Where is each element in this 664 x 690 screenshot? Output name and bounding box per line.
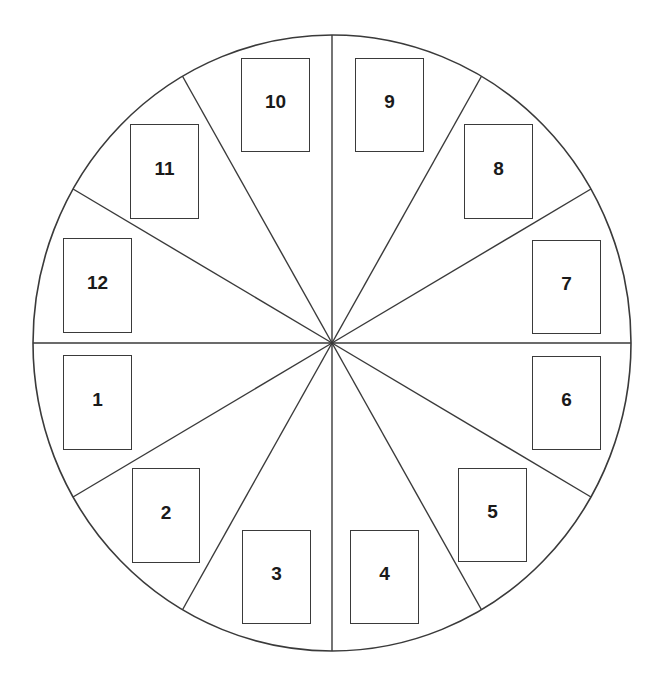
slot-11[interactable]: 11 bbox=[130, 124, 199, 219]
slot-8[interactable]: 8 bbox=[464, 124, 533, 219]
slot-10[interactable]: 10 bbox=[241, 58, 310, 152]
slot-2[interactable]: 2 bbox=[132, 468, 200, 563]
slot-4[interactable]: 4 bbox=[350, 530, 419, 624]
slot-label: 3 bbox=[271, 563, 282, 585]
slot-9[interactable]: 9 bbox=[355, 58, 424, 152]
slot-label: 8 bbox=[493, 158, 504, 180]
slot-5[interactable]: 5 bbox=[458, 468, 527, 562]
slot-1[interactable]: 1 bbox=[63, 355, 132, 450]
slot-label: 9 bbox=[384, 91, 395, 113]
slot-3[interactable]: 3 bbox=[242, 530, 311, 624]
slot-label: 4 bbox=[379, 563, 390, 585]
slot-label: 7 bbox=[561, 273, 572, 295]
slot-label: 10 bbox=[265, 91, 286, 113]
slot-label: 2 bbox=[161, 502, 172, 524]
slot-label: 6 bbox=[561, 389, 572, 411]
slot-label: 12 bbox=[87, 272, 108, 294]
slot-6[interactable]: 6 bbox=[532, 356, 601, 450]
slot-label: 5 bbox=[487, 501, 498, 523]
wheel-diagram bbox=[0, 0, 664, 690]
slot-12[interactable]: 12 bbox=[63, 238, 132, 333]
slot-label: 1 bbox=[92, 389, 103, 411]
slot-7[interactable]: 7 bbox=[532, 240, 601, 334]
slot-label: 11 bbox=[154, 158, 174, 180]
